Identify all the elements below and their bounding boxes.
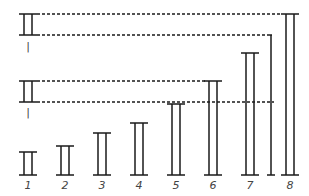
bar-label: 6 — [210, 179, 217, 192]
bar-label: 7 — [247, 179, 254, 192]
bar-label: 4 — [136, 179, 143, 192]
bar-label: 5 — [173, 179, 180, 192]
bar-label: 1 — [25, 179, 32, 192]
bar-4: 4 — [130, 123, 148, 192]
bar-label: 2 — [62, 179, 69, 192]
bar-5: 5 — [167, 104, 185, 192]
bar-diagram: || 12345678 — [0, 0, 309, 196]
reference-units: || — [19, 14, 37, 119]
single-line-marker — [267, 35, 275, 175]
bars: 12345678 — [19, 14, 299, 192]
bar-3: 3 — [93, 133, 111, 192]
reference-unit-label: | — [26, 106, 30, 119]
bar-label: 8 — [287, 179, 294, 192]
bar-6: 6 — [204, 81, 222, 192]
bar-2: 2 — [56, 146, 74, 192]
bar-8: 8 — [281, 14, 299, 192]
bar-7: 7 — [241, 53, 259, 192]
reference-unit: | — [19, 14, 37, 53]
reference-unit: | — [19, 81, 37, 119]
reference-unit-label: | — [26, 40, 30, 53]
dashed-projection-lines — [37, 14, 281, 102]
bar-1: 1 — [19, 152, 37, 192]
bar-label: 3 — [99, 179, 106, 192]
